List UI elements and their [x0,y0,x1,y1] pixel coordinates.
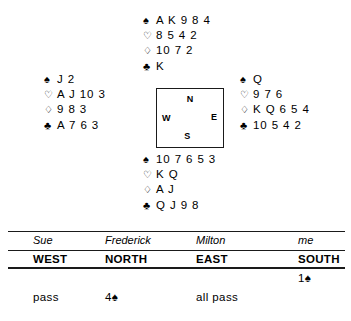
hand-south-hearts-row: ♡ K Q [143,167,216,183]
heart-icon: ♡ [240,88,253,103]
hand-east-spades: Q [253,72,263,87]
hand-south-clubs-row: ♣ Q J 9 8 [143,198,216,213]
hand-north-clubs-row: ♣ K [143,59,211,74]
diamond-icon: ♢ [240,103,253,118]
bid-west-round2: pass [33,290,59,304]
player-name-north: Frederick [105,234,151,247]
bid-north-round2: 4♠ [105,290,118,304]
hand-east-clubs-row: ♣ 10 5 4 2 [240,118,310,133]
hand-west-hearts-row: ♡ A J 10 3 [44,87,106,103]
compass-south-label: S [184,132,190,141]
seat-header-east: EAST [196,252,228,266]
spade-icon: ♠ [143,152,156,167]
hand-north-diamonds: 10 7 2 [156,43,193,58]
hand-north: ♠ A K 9 8 4 ♡ 8 5 4 2 ♢ 10 7 2 ♣ K [143,13,211,73]
spade-icon: ♠ [240,72,253,87]
diamond-icon: ♢ [44,103,57,118]
hand-west-hearts: A J 10 3 [57,87,106,102]
club-icon: ♣ [143,198,156,213]
compass-box: N E S W [156,88,224,148]
bridge-deal-diagram: ♠ A K 9 8 4 ♡ 8 5 4 2 ♢ 10 7 2 ♣ K ♠ J 2… [0,0,351,225]
hand-east-diamonds: K Q 6 5 4 [253,102,310,117]
player-name-south: me [298,234,313,247]
club-icon: ♣ [240,118,253,133]
hand-south-hearts: K Q [156,167,179,182]
hand-north-hearts: 8 5 4 2 [156,28,197,43]
spade-icon: ♠ [44,72,57,87]
hand-east: ♠ Q ♡ 9 7 6 ♢ K Q 6 5 4 ♣ 10 5 4 2 [240,72,310,132]
player-name-east: Milton [196,234,225,247]
hand-north-hearts-row: ♡ 8 5 4 2 [143,28,211,44]
player-name-west: Sue [33,234,53,247]
table-rule-bottom [8,267,345,269]
hand-south-diamonds: A J [156,182,175,197]
auction-table: Sue Frederick Milton me WEST NORTH EAST … [0,231,351,321]
bid-south-round1: 1♠ [298,271,311,285]
heart-icon: ♡ [143,29,156,44]
hand-east-hearts-row: ♡ 9 7 6 [240,87,310,103]
hand-east-spades-row: ♠ Q [240,72,310,87]
compass-north-label: N [187,95,194,104]
hand-west-diamonds: 9 8 3 [57,102,87,117]
compass-east-label: E [211,112,217,121]
compass-west-label: W [162,114,171,123]
hand-north-spades: A K 9 8 4 [156,13,211,28]
hand-east-hearts: 9 7 6 [253,87,283,102]
hand-west-diamonds-row: ♢ 9 8 3 [44,102,106,118]
bid-east-round2: all pass [196,290,238,304]
hand-east-clubs: 10 5 4 2 [253,118,302,133]
hand-south-spades-row: ♠ 10 7 6 5 3 [143,152,216,167]
hand-west-clubs-row: ♣ A 7 6 3 [44,118,106,133]
hand-south-diamonds-row: ♢ A J [143,182,216,198]
hand-east-diamonds-row: ♢ K Q 6 5 4 [240,102,310,118]
seat-header-north: NORTH [105,252,147,266]
hand-south-spades: 10 7 6 5 3 [156,152,216,167]
hand-north-diamonds-row: ♢ 10 7 2 [143,43,211,59]
club-icon: ♣ [44,118,57,133]
hand-north-clubs: K [156,59,165,74]
hand-north-spades-row: ♠ A K 9 8 4 [143,13,211,28]
seat-header-west: WEST [33,252,67,266]
heart-icon: ♡ [143,168,156,183]
hand-west-clubs: A 7 6 3 [57,118,99,133]
seat-header-south: SOUTH [298,252,340,266]
table-rule-top [8,231,345,232]
diamond-icon: ♢ [143,44,156,59]
hand-west-spades: J 2 [57,72,75,87]
hand-west-spades-row: ♠ J 2 [44,72,106,87]
hand-south-clubs: Q J 9 8 [156,198,199,213]
hand-west: ♠ J 2 ♡ A J 10 3 ♢ 9 8 3 ♣ A 7 6 3 [44,72,106,132]
club-icon: ♣ [143,59,156,74]
table-rule-middle [8,250,345,251]
diamond-icon: ♢ [143,183,156,198]
hand-south: ♠ 10 7 6 5 3 ♡ K Q ♢ A J ♣ Q J 9 8 [143,152,216,212]
heart-icon: ♡ [44,88,57,103]
spade-icon: ♠ [143,13,156,28]
